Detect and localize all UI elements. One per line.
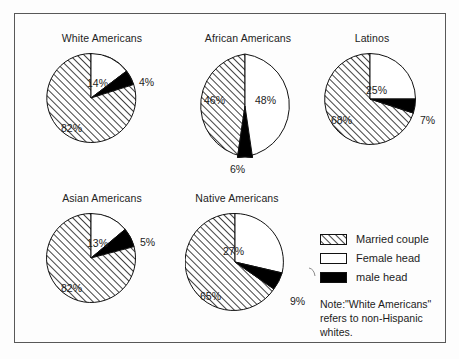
- pie-graphic-latinos: [323, 52, 417, 150]
- pie-value-male-head: 4%: [139, 76, 154, 88]
- pie-value-married-couple: 46%: [204, 94, 225, 106]
- legend-swatch-white-icon: [320, 253, 347, 264]
- pie-value-married-couple: 65%: [200, 290, 221, 302]
- figure-note: Note:"White Americans" refers to non-His…: [320, 297, 459, 339]
- pie-value-female-head: 48%: [255, 94, 276, 106]
- pie-value-female-head: 13%: [87, 237, 108, 249]
- pie-chart-latinos: Latinos 25% 7% 68%: [315, 32, 459, 162]
- figure-canvas: White Americans 14% 4% 82% African Ameri…: [0, 0, 459, 359]
- pie-value-male-head: 7%: [420, 114, 435, 126]
- note-line-1: Note:"White Americans": [320, 297, 459, 311]
- legend-item-married-couple: Married couple: [320, 232, 455, 246]
- pie-title-native-americans: Native Americans: [157, 192, 317, 204]
- legend-swatch-black-icon: [320, 272, 347, 283]
- pie-value-married-couple: 68%: [331, 114, 352, 126]
- pie-chart-white-americans: White Americans 14% 4% 82%: [27, 32, 177, 162]
- legend-label-female-head: Female head: [356, 252, 420, 264]
- pie-graphic-african-americans: [191, 52, 299, 164]
- pie-value-male-head: 5%: [140, 236, 155, 248]
- pie-value-female-head: 14%: [87, 77, 108, 89]
- legend-swatch-hatch-icon: [320, 234, 347, 245]
- pie-chart-native-americans: Native Americans 27% 9% 65%: [167, 192, 327, 332]
- legend-item-female-head: Female head: [320, 251, 455, 265]
- figure-frame: White Americans 14% 4% 82% African Ameri…: [14, 13, 446, 343]
- pie-chart-african-americans: African Americans 48% 6% 46%: [173, 32, 323, 172]
- pie-value-male-head: 6%: [230, 163, 245, 175]
- pie-value-married-couple: 82%: [61, 122, 82, 134]
- pie-title-asian-americans: Asian Americans: [27, 192, 177, 204]
- pie-value-male-head: 9%: [290, 295, 305, 307]
- pie-value-female-head: 25%: [366, 84, 387, 96]
- pie-title-latinos: Latinos: [297, 32, 447, 44]
- pie-chart-asian-americans: Asian Americans 13% 5% 82%: [27, 192, 177, 322]
- pie-value-female-head: 27%: [223, 245, 244, 257]
- pie-graphic-white-americans: [45, 52, 137, 148]
- pie-title-white-americans: White Americans: [27, 32, 177, 44]
- legend-label-married-couple: Married couple: [356, 233, 429, 245]
- legend: Married couple Female head male head: [320, 232, 455, 289]
- legend-label-male-head: male head: [356, 271, 407, 283]
- note-line-2: refers to non-Hispanic: [320, 311, 459, 325]
- note-line-3: whites.: [320, 325, 459, 339]
- pie-graphic-asian-americans: [45, 212, 137, 308]
- legend-item-male-head: male head: [320, 270, 455, 284]
- pie-value-married-couple: 82%: [61, 282, 82, 294]
